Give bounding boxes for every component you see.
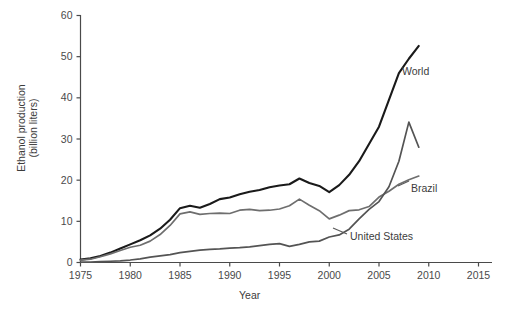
- x-axis-title: Year: [239, 289, 260, 301]
- x-tick-label: 2015: [449, 270, 509, 281]
- ethanol-production-line-chart: 0102030405060 19751980198519901995200020…: [0, 0, 509, 315]
- series-line-world: [81, 46, 419, 260]
- y-axis-title: Ethanol production (billion liters): [15, 73, 39, 183]
- y-tick-label: 60: [31, 10, 73, 21]
- axes: [77, 15, 493, 267]
- series-label-brazil: Brazil: [411, 183, 437, 194]
- y-tick-label: 10: [31, 216, 73, 227]
- y-tick-label: 50: [31, 51, 73, 62]
- plot-area: [0, 0, 509, 315]
- series-label-world: World: [402, 66, 429, 77]
- series-label-united-states: United States: [350, 231, 413, 242]
- y-tick-label: 0: [31, 257, 73, 268]
